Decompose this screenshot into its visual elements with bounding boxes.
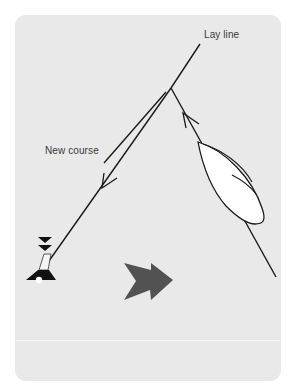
new-course-label: New course	[45, 145, 99, 156]
boat-direction-chevron-icon	[183, 113, 199, 128]
course-to-mark-line	[44, 88, 171, 268]
sailboat-hull-icon	[198, 142, 264, 224]
wind-direction-arrow-icon	[124, 263, 173, 300]
windward-mark-buoy-icon	[26, 237, 56, 283]
lay-line-diagram	[0, 0, 296, 391]
lay-line-label: Lay line	[204, 29, 239, 40]
new-course-pointer-line	[104, 92, 166, 163]
lay-line	[171, 44, 200, 88]
